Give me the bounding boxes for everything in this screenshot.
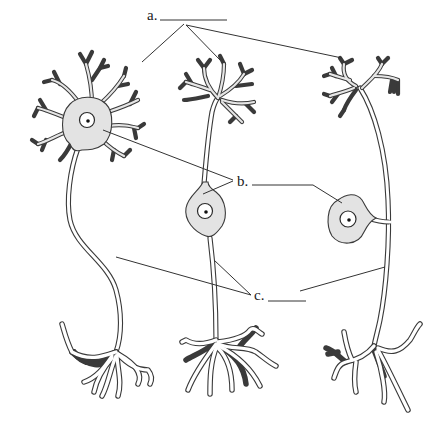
unipolar-nucleolus xyxy=(347,218,351,222)
unipolar-dendrites xyxy=(324,58,398,116)
unipolar-axon-terminals xyxy=(326,324,420,410)
label-c: c. xyxy=(254,287,264,303)
label-a-leader-1 xyxy=(142,24,184,62)
label-c-group: c. xyxy=(116,257,385,303)
bipolar-nucleolus xyxy=(204,210,208,214)
label-c-leader-3 xyxy=(300,267,385,291)
multipolar-neuron xyxy=(32,52,151,396)
neuron-diagram: a. b. c. xyxy=(0,0,446,443)
multipolar-nucleolus xyxy=(86,119,90,123)
bipolar-axon xyxy=(210,238,216,340)
multipolar-axon-terminals xyxy=(62,324,151,396)
label-a-leader-2 xyxy=(186,25,220,60)
label-b-group: b. xyxy=(103,130,342,203)
label-a: a. xyxy=(147,7,157,23)
bipolar-neuron xyxy=(180,56,276,394)
unipolar-neuron xyxy=(324,58,420,410)
bipolar-dendrites xyxy=(180,56,254,122)
label-b-leader-3 xyxy=(313,185,342,203)
multipolar-axon xyxy=(68,148,120,352)
label-a-leader-3 xyxy=(186,25,342,58)
label-a-group: a. xyxy=(142,7,342,62)
bipolar-axon-terminals xyxy=(182,328,276,394)
label-b: b. xyxy=(237,173,248,189)
